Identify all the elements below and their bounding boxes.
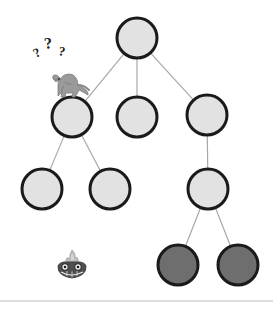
tree-edge — [151, 54, 193, 100]
question-mark-glyph-3: ? — [57, 43, 66, 59]
scene-canvas: ??? — [0, 0, 273, 316]
node-middle-branch[interactable] — [117, 97, 157, 137]
node-right-child[interactable] — [188, 169, 228, 209]
node-leaf-mid-left[interactable] — [90, 169, 130, 209]
question-mark-glyph-1: ? — [30, 44, 43, 60]
node-goal-left[interactable] — [158, 245, 198, 285]
tree-edge — [186, 209, 201, 246]
creature-body — [58, 262, 86, 278]
flame-creature-figure — [54, 248, 90, 282]
node-root[interactable] — [117, 18, 157, 58]
tree-edge — [85, 54, 123, 101]
question-mark-glyph-2: ? — [43, 36, 53, 52]
tree-edge — [216, 209, 231, 246]
tree-edge — [82, 136, 100, 171]
node-left-branch[interactable] — [52, 97, 92, 137]
node-leaf-left[interactable] — [22, 169, 62, 209]
node-right-branch[interactable] — [187, 95, 227, 135]
node-goal-right[interactable] — [218, 245, 258, 285]
dinosaur-figure — [48, 66, 90, 100]
dinosaur-body — [53, 74, 89, 97]
tree-edge — [50, 136, 64, 169]
